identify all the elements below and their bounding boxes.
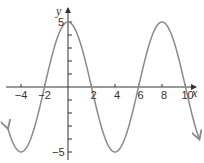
x-tick-label: 6: [137, 89, 143, 101]
x-tick-label: 10: [181, 89, 193, 101]
x-tick-label: 8: [161, 89, 167, 101]
x-tick-label: −2: [38, 89, 51, 101]
x-tick-label: −4: [15, 89, 28, 101]
x-tick-labels: −4−2246810: [15, 89, 194, 101]
x-tick-label: 2: [90, 89, 96, 101]
x-tick-label: 4: [114, 89, 120, 101]
y-min-label: −5: [52, 146, 65, 158]
y-max-label: 5: [58, 16, 64, 28]
cosine-graph: y x 5 −5 −4−2246810: [0, 0, 204, 163]
